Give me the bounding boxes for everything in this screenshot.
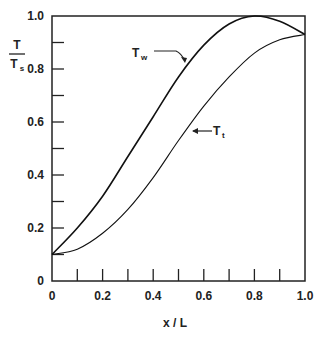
annotation-sub-tw: w: [140, 53, 148, 62]
annotation-label-tt: T: [213, 124, 221, 138]
y-tick-label: 0.2: [27, 221, 44, 235]
x-tick-label: 0.8: [246, 289, 263, 303]
x-tick-label: 0.4: [145, 289, 162, 303]
axes: [52, 16, 305, 281]
annotation-arrowhead-tw: [181, 57, 187, 63]
y-label-denominator: T: [10, 57, 18, 71]
y-tick-label: 0.6: [27, 115, 44, 129]
x-tick-label: 0.2: [94, 289, 111, 303]
plot-frame: [52, 16, 305, 281]
y-tick-label: 1.0: [27, 9, 44, 23]
tick-labels: 00.20.40.60.81.000.20.40.60.81.0: [27, 9, 313, 303]
x-axis-label: x / L: [163, 316, 187, 330]
annotations: TwTt: [132, 46, 225, 140]
y-tick-label: 0: [37, 274, 44, 288]
annotation-arrow-tw: [154, 51, 185, 61]
annotation-label-tw: T: [132, 46, 140, 60]
y-tick-label: 0.4: [27, 168, 44, 182]
x-tick-label: 0: [49, 289, 56, 303]
x-tick-label: 1.0: [297, 289, 314, 303]
y-label-numerator: T: [13, 38, 21, 52]
annotation-arrowhead-tt: [192, 128, 198, 134]
series-line-tt: [52, 35, 305, 255]
y-tick-label: 0.8: [27, 62, 44, 76]
y-label-denominator-sub: s: [20, 64, 25, 73]
x-tick-label: 0.6: [195, 289, 212, 303]
chart: 00.20.40.60.81.000.20.40.60.81.0 TwTt T …: [0, 0, 325, 340]
y-axis-label: T T s: [9, 38, 25, 73]
annotation-sub-tt: t: [222, 131, 225, 140]
